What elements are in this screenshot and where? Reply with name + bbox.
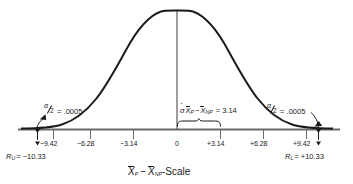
denominator-two: 2 [50,107,54,114]
critical-value-rl-label: RL= +10.33 [285,152,324,161]
axis-scale-word: -Scale [162,166,190,177]
ru-subscript: U [11,155,15,161]
rl-subscript: L [290,155,293,161]
sigma-tilde-symbol: ̃ σ [180,106,185,115]
ru-value: = −10.33 [16,152,46,161]
critical-value-ru-label: RU= −10.33 [6,152,46,161]
subscript-np: NP [205,109,212,115]
alpha-symbol: α [267,102,271,109]
x-bar-p: X [186,106,191,115]
alpha-left-label: α 2 = .0005 [44,104,82,116]
critical-tick-left [35,128,41,140]
axis-ticks [54,130,307,139]
denominator-two: 2 [273,107,277,114]
tick-label-1: −6.28 [77,140,94,147]
subscript-p: P [191,109,194,115]
tick-label-5: +6.28 [250,140,267,147]
tick-label-0: −9.42 [40,140,57,147]
x-bar-np: X [200,106,205,115]
tick-label-4: +3.14 [207,140,224,147]
axis-sub-p: P [135,171,138,177]
sigma-value: = 3.14 [216,106,237,115]
alpha-over-two-right: α 2 [267,104,278,115]
critical-tick-right [316,128,322,140]
alpha-right-value: = .0005 [280,107,305,116]
axis-minus: − [140,166,146,177]
tick-label-2: −3.14 [120,140,137,147]
alpha-right-label: α 2 = .0005 [267,104,305,116]
sigma-brace [178,119,221,127]
alpha-symbol: α [44,102,48,109]
rl-value: = +10.33 [294,152,324,161]
axis-sub-np: NP [155,171,162,177]
tick-label-3: 0 [175,140,179,147]
alpha-left-value: = .0005 [57,107,82,116]
axis-x-bar-p: X [128,166,135,177]
tick-label-6: +9.42 [293,140,310,147]
alpha-over-two-left: α 2 [44,104,55,115]
x-axis-title: XP−XNP-Scale [128,166,190,177]
alpha-right-arrowhead [315,121,323,127]
minus-sign: − [195,106,199,115]
alpha-left-arrow [37,119,44,128]
axis-x-bar-np: X [148,166,155,177]
sigma-label: ̃ σ XP−XNP = 3.14 [180,106,237,115]
